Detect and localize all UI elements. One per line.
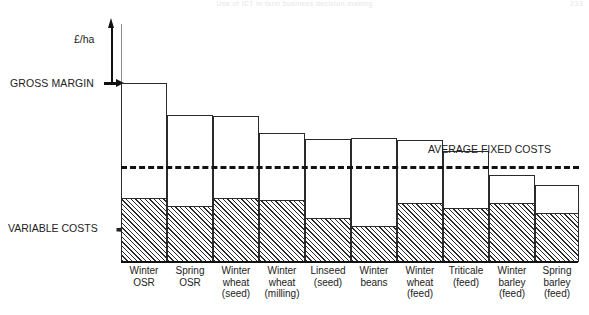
x-tick-label-line: (feed) bbox=[489, 288, 535, 300]
x-tick-label-spring-barley-feed: Springbarley(feed) bbox=[535, 265, 579, 300]
x-tick-label-line: beans bbox=[351, 277, 397, 289]
variable-costs-segment-winter-osr bbox=[122, 198, 166, 261]
x-tick-label-triticale-feed: Triticale(feed) bbox=[443, 265, 489, 288]
variable-costs-segment-winter-wheat-feed bbox=[398, 203, 442, 261]
bar-spring-barley-feed bbox=[535, 185, 579, 262]
variable-costs-segment-winter-wheat-milling bbox=[260, 200, 304, 261]
x-tick-label-winter-wheat-feed: Winterwheat(feed) bbox=[397, 265, 443, 300]
x-tick-label-winter-beans: Winterbeans bbox=[351, 265, 397, 288]
variable-costs-segment-winter-wheat-seed bbox=[214, 198, 258, 261]
x-tick-label-spring-osr: SpringOSR bbox=[167, 265, 213, 288]
bar-spring-osr bbox=[167, 115, 213, 262]
x-tick-label-line: wheat bbox=[259, 277, 305, 289]
x-tick-label-winter-wheat-milling: Winterwheat(milling) bbox=[259, 265, 305, 300]
bar-winter-wheat-seed bbox=[213, 116, 259, 262]
x-tick-label-line: Linseed bbox=[305, 265, 351, 277]
variable-costs-segment-triticale-feed bbox=[444, 208, 488, 261]
x-tick-label-line: (feed) bbox=[397, 288, 443, 300]
bar-linseed-seed bbox=[305, 139, 351, 262]
x-tick-label-line: (feed) bbox=[443, 277, 489, 289]
x-tick-label-line: (seed) bbox=[305, 277, 351, 289]
x-tick-label-line: (feed) bbox=[535, 288, 579, 300]
bar-winter-wheat-milling bbox=[259, 133, 305, 262]
x-tick-label-line: wheat bbox=[397, 277, 443, 289]
x-tick-label-winter-wheat-seed: Winterwheat(seed) bbox=[213, 265, 259, 300]
x-tick-label-line: (milling) bbox=[259, 288, 305, 300]
x-tick-label-line: Triticale bbox=[443, 265, 489, 277]
x-tick-label-line: Winter bbox=[397, 265, 443, 277]
variable-costs-segment-winter-beans bbox=[352, 226, 396, 261]
variable-costs-segment-linseed-seed bbox=[306, 218, 350, 261]
average-fixed-costs-label: AVERAGE FIXED COSTS bbox=[428, 143, 551, 155]
x-tick-label-line: barley bbox=[535, 277, 579, 289]
x-axis-baseline bbox=[121, 261, 578, 263]
x-tick-label-line: (seed) bbox=[213, 288, 259, 300]
bar-winter-osr bbox=[121, 83, 167, 262]
x-tick-label-linseed-seed: Linseed(seed) bbox=[305, 265, 351, 288]
gross-margin-chart: Use of ICT in farm business decision-mak… bbox=[0, 0, 589, 315]
x-tick-label-winter-osr: WinterOSR bbox=[121, 265, 167, 288]
x-tick-label-line: Winter bbox=[213, 265, 259, 277]
x-tick-label-line: Winter bbox=[489, 265, 535, 277]
x-tick-label-line: Spring bbox=[535, 265, 579, 277]
x-tick-label-line: Winter bbox=[121, 265, 167, 277]
x-tick-label-line: OSR bbox=[167, 277, 213, 289]
x-tick-label-line: barley bbox=[489, 277, 535, 289]
x-tick-label-line: Winter bbox=[259, 265, 305, 277]
variable-costs-segment-winter-barley-feed bbox=[490, 203, 534, 261]
x-tick-label-line: Winter bbox=[351, 265, 397, 277]
average-fixed-costs-line bbox=[121, 166, 579, 169]
x-tick-label-line: wheat bbox=[213, 277, 259, 289]
x-axis-tick-labels: WinterOSRSpringOSRWinterwheat(seed)Winte… bbox=[121, 265, 579, 315]
bar-winter-barley-feed bbox=[489, 175, 535, 262]
x-tick-label-line: OSR bbox=[121, 277, 167, 289]
x-tick-label-winter-barley-feed: Winterbarley(feed) bbox=[489, 265, 535, 300]
bar-winter-wheat-feed bbox=[397, 140, 443, 262]
variable-costs-segment-spring-osr bbox=[168, 206, 212, 261]
x-tick-label-line: Spring bbox=[167, 265, 213, 277]
bar-winter-beans bbox=[351, 138, 397, 262]
variable-costs-segment-spring-barley-feed bbox=[536, 213, 578, 261]
